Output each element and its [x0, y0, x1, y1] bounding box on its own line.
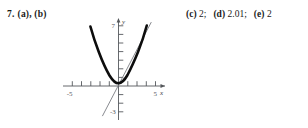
y-tick-label-neg3: -3 [110, 108, 116, 116]
problem-label: 7.(a), (b) [7, 9, 47, 19]
answer-key-figure: 7.(a), (b) (c)2;(d)2.01;(e)2 [0, 0, 308, 128]
answer-tag-d: (d) [213, 9, 225, 19]
y-axis-ticks [119, 26, 124, 112]
answer-value-e: 2 [267, 9, 272, 19]
answer-value-d: 2.01; [228, 9, 247, 19]
x-tick-label-5: 5 [153, 90, 157, 98]
x-tick-label-neg5: -5 [67, 90, 73, 98]
x-axis-label: x [159, 89, 164, 97]
plot-svg: -5 5 7 -3 x y [60, 12, 170, 126]
problem-parts: (a), (b) [18, 9, 47, 19]
graph-figure: -5 5 7 -3 x y [60, 12, 170, 126]
answer-item-e: (e)2 [254, 9, 272, 19]
problem-number: 7. [7, 9, 15, 19]
answer-tag-e: (e) [254, 9, 265, 19]
x-axis [63, 84, 165, 88]
answer-item-d: (d)2.01; [213, 9, 246, 19]
answers-list: (c)2;(d)2.01;(e)2 [186, 9, 279, 19]
answer-tag-c: (c) [186, 9, 197, 19]
answer-item-c: (c)2; [186, 9, 206, 19]
y-axis-label: y [121, 18, 126, 26]
answer-value-c: 2; [199, 9, 206, 19]
y-tick-label-7: 7 [112, 22, 116, 30]
